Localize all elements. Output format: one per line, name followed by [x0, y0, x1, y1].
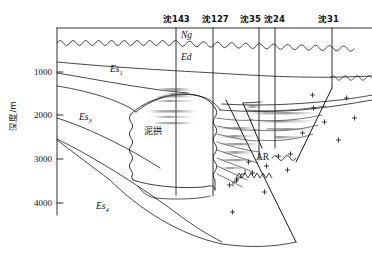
well-label-shen127[interactable]: 沈127: [202, 15, 229, 24]
formation-label-ed: Ed: [181, 53, 192, 63]
depth-tick-3000: 3000: [18, 155, 52, 164]
well-label-shen24[interactable]: 沈24: [264, 15, 285, 24]
formation-label-ng: Ng: [181, 31, 192, 41]
sand-body-shading: [148, 88, 318, 169]
contact-es3-base: [57, 139, 222, 242]
fault-right-outer: [296, 88, 332, 162]
formation-sub-es3: 3: [89, 117, 92, 124]
diapir-left-flank: [129, 114, 133, 180]
depth-tick-4000: 4000: [18, 199, 52, 208]
block-top: [243, 102, 261, 103]
diapir-base: [133, 180, 215, 190]
depth-tick-1000: 1000: [18, 68, 52, 77]
contact-es4-base: [57, 140, 110, 180]
formation-code-es4: Es: [96, 201, 106, 211]
formation-sub-es4: 4: [106, 206, 109, 213]
formation-code-ed: Ed: [181, 52, 192, 62]
diapir-inner-base: [155, 196, 210, 199]
annotation-basement-ar: AR: [256, 153, 269, 163]
annotation-mud-diapir: 泥拱: [144, 127, 162, 136]
depth-axis: [57, 28, 63, 215]
depth-axis-title: 深度/m: [6, 88, 18, 144]
formation-code-ng: Ng: [181, 30, 192, 40]
formation-label-es3: Es3: [79, 113, 92, 124]
formation-label-es4: Es4: [96, 202, 109, 213]
well-label-shen35[interactable]: 沈35: [240, 15, 261, 24]
basement-top-right: [272, 156, 296, 161]
formation-sub-es1: 1: [120, 69, 123, 76]
unconformity-ng-ed: [57, 40, 354, 51]
well-label-shen143[interactable]: 沈143: [163, 15, 190, 24]
formation-code-es1: Es: [110, 64, 120, 74]
formation-code-es3: Es: [79, 112, 89, 122]
shading-uplift-block: [244, 105, 318, 138]
formation-label-es1: Es1: [110, 65, 123, 76]
well-label-shen31[interactable]: 沈31: [318, 15, 339, 24]
depth-tick-2000: 2000: [18, 111, 52, 120]
contact-es1-base-left: [57, 86, 136, 112]
figure-canvas: 深度/m 1000 2000 3000 4000 沈143 沈127 沈35 沈…: [0, 0, 372, 254]
basin-floor: [110, 180, 296, 246]
diapir-right-flank: [213, 108, 216, 190]
contact-ed-es1: [57, 62, 372, 77]
